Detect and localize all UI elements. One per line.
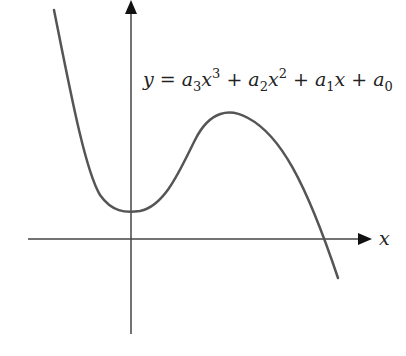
cubic-curve — [54, 10, 338, 278]
x-axis-arrow-icon — [358, 233, 372, 245]
x-axis-label: x — [379, 227, 390, 249]
equation-label: y = a3x3 + a2x2 + a1x + a0 — [142, 66, 393, 94]
y-axis-arrow-icon — [125, 0, 137, 14]
cubic-graph: x y = a3x3 + a2x2 + a1x + a0 — [0, 0, 406, 356]
